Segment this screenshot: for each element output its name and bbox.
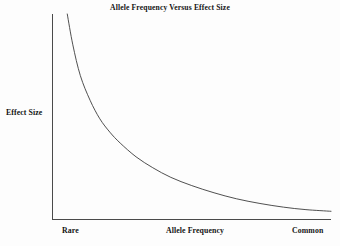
chart-figure: Allele Frequency Versus Effect Size Effe… xyxy=(0,0,340,246)
y-axis-label: Effect Size xyxy=(6,108,58,117)
x-tick-label-common: Common xyxy=(292,226,336,235)
x-tick-label-rare: Rare xyxy=(62,226,79,235)
data-series-line xyxy=(67,14,331,211)
plot-area xyxy=(0,0,340,246)
x-axis-label: Allele Frequency xyxy=(145,226,245,235)
